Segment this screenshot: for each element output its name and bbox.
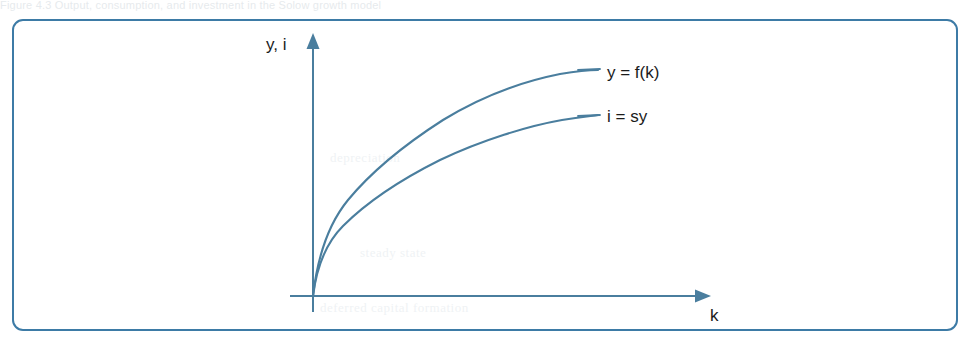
investment-label-leader — [578, 115, 600, 116]
production-function-label: y = f(k) — [607, 64, 659, 81]
bleed-through-text-b: steady state — [360, 245, 426, 261]
x-axis-label: k — [710, 307, 719, 324]
y-axis-label: y, i — [266, 36, 286, 53]
production-label-leader — [578, 69, 600, 70]
investment-function-label: i = sy — [607, 108, 647, 125]
figure-caption-sliver: Figure 4.3 Output, consumption, and inve… — [0, 0, 975, 11]
figure-frame — [12, 19, 958, 331]
bleed-through-text-a: deferred capital formation — [320, 300, 469, 316]
